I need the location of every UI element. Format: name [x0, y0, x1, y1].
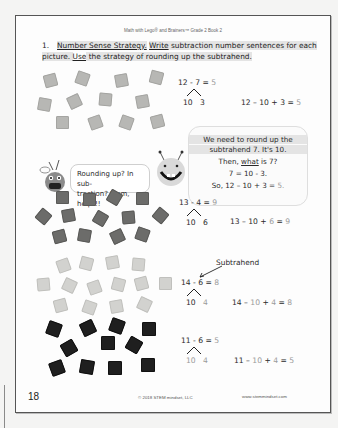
lego-tile	[98, 92, 112, 106]
lego-tile	[59, 338, 78, 357]
lego-tile	[118, 114, 135, 131]
lego-tile	[101, 336, 115, 350]
equation-3: 14 - 6 = 8	[181, 278, 219, 287]
instruction-verb-write: Write	[149, 41, 169, 50]
copyright: © 2018 STEM mindset, LLC	[138, 395, 193, 400]
lego-tile	[105, 255, 120, 270]
problem-number: 1.	[42, 41, 49, 50]
lego-tile	[108, 361, 122, 375]
rewrite-2: 13 – 10 + 6 = 9	[230, 217, 290, 226]
lego-tile	[79, 359, 95, 375]
bubble-line: So, 12 – 10 + 3 = 5.	[189, 181, 307, 190]
lego-tile	[150, 114, 166, 130]
bubble-line: We need to round up the	[189, 135, 307, 144]
worried-monster-icon	[39, 156, 71, 194]
subtrahend-arrow-icon	[194, 265, 224, 279]
rewrite-3: 14 – 10 + 4 = 8	[232, 298, 292, 307]
scan-edge-line	[4, 385, 5, 428]
lego-tile	[37, 97, 52, 112]
page-number: 18	[28, 391, 39, 402]
lego-tile	[149, 70, 165, 86]
lego-tile	[61, 277, 78, 294]
lego-tile	[52, 229, 68, 245]
lego-tile	[74, 70, 91, 87]
lego-tile	[151, 206, 169, 224]
equation-2: 13 - 4 = 9	[179, 198, 217, 207]
instruction-verb-use: Use	[73, 52, 87, 61]
lego-tile	[56, 191, 69, 204]
number-bond-branch-3	[184, 288, 204, 297]
number-bond-1: 10 3	[183, 98, 205, 107]
lego-tile	[114, 73, 129, 88]
lego-tile	[55, 257, 72, 274]
lego-tile	[61, 208, 76, 223]
answer-3: 8	[214, 278, 219, 287]
lego-tile	[86, 279, 103, 296]
lego-tile	[87, 114, 104, 131]
bubble-line: Rounding up? In sub-	[77, 169, 149, 189]
instruction-title: Number Sense Strategy.	[57, 41, 147, 50]
lego-tile	[131, 257, 145, 271]
equation-4: 11 - 6 = 5	[181, 336, 219, 345]
question-bubble: Rounding up? In sub- traction? Mom, help…	[70, 164, 150, 193]
equation-1: 12 - 7 = 5	[178, 78, 216, 87]
lego-tile	[83, 193, 96, 206]
book-header: Math with Lego® and Brainers™ Grade 2 Bo…	[16, 28, 330, 33]
lego-tile	[121, 210, 135, 224]
lego-tile	[124, 335, 143, 354]
lego-tile	[111, 277, 127, 293]
lego-tile	[77, 228, 92, 243]
answer-2: 9	[212, 198, 217, 207]
number-bond-branch-4	[184, 346, 204, 355]
lego-tile	[136, 192, 149, 205]
lego-tile	[56, 116, 69, 129]
lego-tile	[79, 319, 98, 338]
lego-tile	[43, 73, 59, 89]
lego-tile	[92, 210, 110, 228]
number-bond-branch-2	[184, 208, 204, 217]
smiling-monster-icon	[154, 148, 188, 190]
number-bond-3: 10 4	[186, 298, 208, 307]
lego-tile	[36, 277, 50, 291]
answer-4: 5	[214, 336, 219, 345]
lego-tile	[142, 322, 156, 336]
rewrite-1: 12 – 10 + 3 = 5	[241, 98, 301, 107]
bubble-line: subtrahend 7. It's 10.	[189, 145, 307, 154]
lego-tile	[141, 358, 155, 372]
instruction-text-2: the strategy of rounding up the subtrahe…	[86, 52, 252, 61]
lego-tile	[109, 299, 124, 314]
lego-tile	[109, 228, 126, 245]
lego-tile	[48, 359, 66, 377]
bubble-line: 7 = 10 - 3.	[189, 169, 307, 178]
lego-tile	[79, 256, 95, 272]
number-bond-branch-1	[184, 88, 204, 97]
lego-tile	[159, 277, 172, 290]
lego-tile	[53, 298, 69, 314]
lego-tile	[136, 296, 153, 313]
bubble-line: Then, what is 7?	[189, 157, 307, 166]
lego-tile	[135, 94, 150, 109]
lego-tile	[134, 226, 151, 243]
lego-tile	[108, 317, 126, 335]
instruction: 1.Number Sense Strategy. Write subtracti…	[42, 40, 322, 62]
rewrite-4: 11 – 10 + 4 = 5	[234, 356, 294, 365]
lego-tile	[66, 93, 83, 110]
number-bond-2: 10 6	[186, 218, 208, 227]
lego-tile	[81, 299, 98, 316]
lego-tile	[34, 207, 52, 225]
worksheet-page: Math with Lego® and Brainers™ Grade 2 Bo…	[15, 15, 331, 413]
explanation-bubble: We need to round up the subtrahend 7. It…	[188, 126, 308, 206]
website-link: www.stemmindset.com	[242, 394, 287, 399]
lego-tile	[134, 276, 150, 292]
number-bond-4: 10 4	[186, 356, 208, 365]
answer-1: 5	[211, 78, 216, 87]
lego-tile	[45, 320, 63, 338]
